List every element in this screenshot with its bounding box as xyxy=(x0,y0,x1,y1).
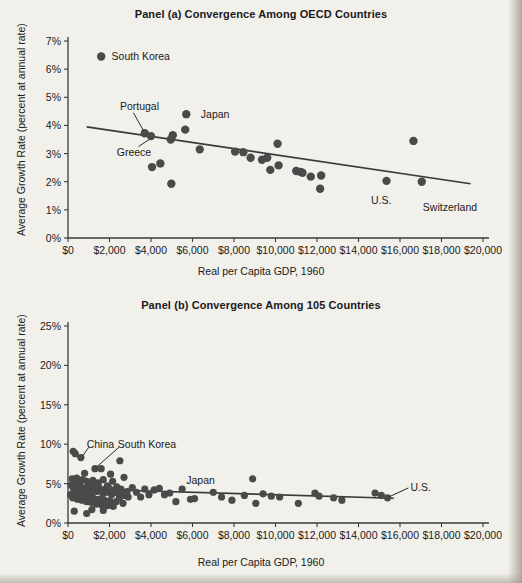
x-tick-label: $0 xyxy=(62,529,74,541)
x-tick-label: $0 xyxy=(62,244,74,256)
data-point xyxy=(338,497,345,504)
x-tick-label: $2,000 xyxy=(93,529,125,541)
data-point xyxy=(378,492,385,499)
y-tick-label: 20% xyxy=(40,359,61,371)
y-tick-label: 5% xyxy=(46,91,61,103)
data-point xyxy=(252,500,259,507)
y-tick-label: 15% xyxy=(40,399,61,411)
data-point xyxy=(100,507,107,514)
axis-lines xyxy=(68,322,489,523)
data-point xyxy=(181,125,189,133)
data-point xyxy=(117,486,124,493)
y-tick-label: 0% xyxy=(46,232,61,244)
x-tick-label: $10,000 xyxy=(257,529,295,541)
data-point xyxy=(148,163,156,171)
annotation-leader-line xyxy=(83,447,89,456)
x-tick-label: $8,000 xyxy=(218,244,250,256)
annotation-label: Japan xyxy=(201,108,230,120)
data-point xyxy=(316,185,324,193)
annotation-leader-line xyxy=(133,113,143,131)
x-tick-label: $14,000 xyxy=(340,244,378,256)
panel-a: Panel (a) Convergence Among OECD Countri… xyxy=(0,0,522,291)
x-tick-label: $10,000 xyxy=(257,244,295,256)
data-point xyxy=(182,110,190,118)
data-point xyxy=(196,145,204,153)
data-point xyxy=(276,493,283,500)
data-point xyxy=(179,486,186,493)
annotation-label: Japan xyxy=(186,474,215,486)
data-point xyxy=(119,500,126,507)
x-tick-label: $18,000 xyxy=(423,244,461,256)
data-point xyxy=(246,154,254,162)
data-point xyxy=(156,485,163,492)
data-point xyxy=(274,161,282,169)
data-point xyxy=(88,506,95,513)
x-tick-label: $18,000 xyxy=(423,529,461,541)
x-tick-label: $2,000 xyxy=(93,244,125,256)
data-point xyxy=(228,497,235,504)
data-point xyxy=(167,179,175,187)
data-point xyxy=(273,140,281,148)
data-point xyxy=(137,493,144,500)
annotation-leader-line xyxy=(390,488,409,497)
x-tick-label: $20,000 xyxy=(464,244,502,256)
data-point xyxy=(231,147,239,155)
data-point xyxy=(268,493,275,500)
annotation-label: South Korea xyxy=(118,438,177,450)
data-point xyxy=(81,470,88,477)
y-tick-label: 2% xyxy=(46,176,61,188)
y-tick-label: 3% xyxy=(46,148,61,160)
data-point xyxy=(307,172,315,180)
data-point xyxy=(418,178,426,186)
x-tick-label: $6,000 xyxy=(176,244,208,256)
x-tick-label: $6,000 xyxy=(176,529,208,541)
y-tick-label: 6% xyxy=(46,63,61,75)
data-point xyxy=(384,494,391,501)
x-tick-label: $4,000 xyxy=(135,529,167,541)
y-tick-label: 0% xyxy=(46,517,61,529)
page-edge-shadow xyxy=(508,0,522,583)
y-tick-label: 4% xyxy=(46,119,61,131)
panel-a-plot-area: $0$2,000$4,000$6,000$8,000$10,000$12,000… xyxy=(0,0,522,291)
data-point xyxy=(295,500,302,507)
y-tick-label: 1% xyxy=(46,204,61,216)
x-tick-label: $4,000 xyxy=(135,244,167,256)
annotation-label: Greece xyxy=(117,146,152,158)
page-bottom-shadow xyxy=(0,573,522,583)
data-point xyxy=(169,131,177,139)
annotation-label: China xyxy=(87,438,115,450)
data-point xyxy=(249,475,256,482)
data-point xyxy=(107,471,114,478)
data-point xyxy=(156,159,164,167)
data-point xyxy=(120,474,127,481)
data-point xyxy=(409,137,417,145)
x-tick-label: $16,000 xyxy=(381,244,419,256)
data-point xyxy=(263,154,271,162)
x-tick-label: $12,000 xyxy=(298,529,336,541)
data-point xyxy=(298,169,306,177)
data-point xyxy=(218,493,225,500)
data-point xyxy=(239,148,247,156)
data-point xyxy=(98,465,105,472)
data-point xyxy=(382,177,390,185)
x-tick-label: $16,000 xyxy=(381,529,419,541)
annotation-label: South Korea xyxy=(112,50,171,62)
data-point xyxy=(100,476,107,483)
panel-b: Panel (b) Convergence Among 105 Countrie… xyxy=(0,291,522,582)
y-tick-label: 25% xyxy=(40,320,61,332)
annotation-label: Switzerland xyxy=(423,201,477,213)
data-point xyxy=(172,498,179,505)
y-tick-label: 7% xyxy=(46,35,61,47)
data-point xyxy=(210,489,217,496)
data-point xyxy=(241,492,248,499)
y-tick-label: 10% xyxy=(40,438,61,450)
annotation-label: Portugal xyxy=(120,100,159,112)
annotation-label: U.S. xyxy=(410,481,430,493)
y-tick-label: 5% xyxy=(46,478,61,490)
data-point xyxy=(315,493,322,500)
x-tick-label: $8,000 xyxy=(218,529,250,541)
x-tick-label: $12,000 xyxy=(298,244,336,256)
data-point xyxy=(259,490,266,497)
data-point xyxy=(116,457,123,464)
annotation-label: U.S. xyxy=(371,194,391,206)
